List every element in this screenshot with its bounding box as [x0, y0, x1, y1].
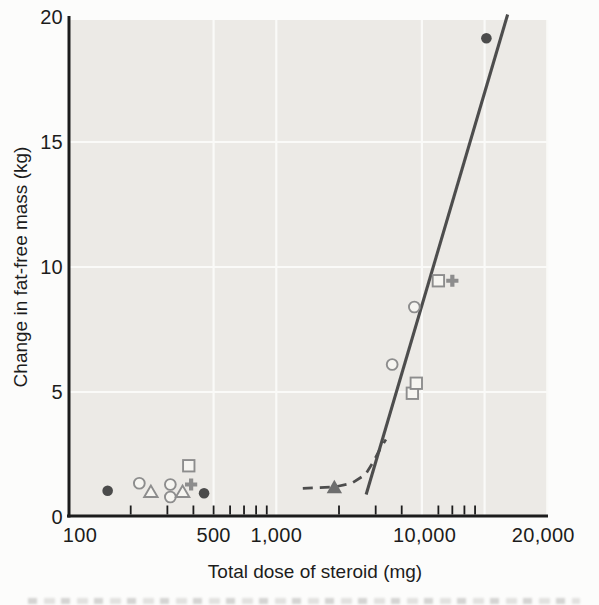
x-tick-label-100: 100 — [32, 524, 128, 546]
filled-circle-marker — [102, 485, 113, 496]
x-tick-label-20000: 20,000 — [495, 524, 591, 546]
cut-off-caption-line — [28, 598, 580, 604]
filled-circle-marker — [199, 488, 210, 499]
y-axis-title: Change in fat-free mass (kg) — [10, 17, 32, 517]
x-tick-label-1000: 1,000 — [228, 524, 324, 546]
filled-circle-marker — [481, 33, 492, 44]
open-square-marker — [183, 460, 194, 471]
open-circle-marker — [387, 359, 398, 370]
open-circle-marker — [134, 478, 145, 489]
open-circle-marker — [409, 302, 420, 313]
open-circle-marker — [165, 479, 176, 490]
open-circle-marker — [165, 492, 176, 503]
x-axis-title: Total dose of steroid (mg) — [115, 561, 515, 583]
x-tick-label-10000: 10,000 — [377, 524, 473, 546]
open-square-marker — [433, 275, 444, 286]
open-square-marker — [411, 378, 422, 389]
scanned-figure: 05101520 1005001,00010,00020,000 Change … — [0, 0, 599, 605]
dose-response-chart — [0, 0, 599, 605]
